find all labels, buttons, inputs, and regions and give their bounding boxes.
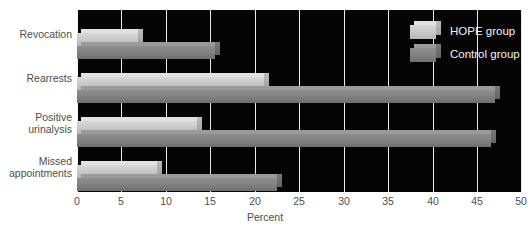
bar-cap <box>495 86 500 99</box>
xtick-label: 25 <box>284 195 314 207</box>
bar-revocation-control <box>77 46 215 59</box>
bar-topface <box>81 42 219 46</box>
plot-area: HOPE group Control group <box>77 10 522 192</box>
bar-cap <box>277 174 282 187</box>
legend-item-hope-group: HOPE group <box>410 22 518 45</box>
bar-cap <box>264 73 269 86</box>
category-label-line: urinalysis <box>0 124 72 136</box>
bar-cap <box>138 29 143 42</box>
xtick-label: 30 <box>329 195 359 207</box>
xtick-label: 50 <box>506 195 530 207</box>
legend-item-control-group: Control group <box>410 45 518 68</box>
xtick-label: 0 <box>62 195 92 207</box>
gridline-50 <box>521 10 522 192</box>
bar-topface <box>81 117 201 121</box>
bar-cap <box>157 161 162 174</box>
category-label-line: appointments <box>0 168 72 180</box>
bar-face <box>77 178 277 191</box>
category-label-line: Revocation <box>0 29 72 41</box>
bar-cap <box>215 42 220 55</box>
bar-face <box>77 90 495 103</box>
xtick-label: 35 <box>373 195 403 207</box>
bar-face <box>77 134 491 147</box>
xtick-label: 45 <box>462 195 492 207</box>
category-label-missed-appointments: Missed appointments <box>0 156 72 179</box>
bar-topface <box>81 130 495 134</box>
category-label-rearrests: Rearrests <box>0 73 72 85</box>
swatch-face <box>410 25 436 39</box>
control-swatch-icon <box>410 48 436 62</box>
category-label-revocation: Revocation <box>0 29 72 41</box>
bar-missed-appointments-control <box>77 178 277 191</box>
legend-label: HOPE group <box>450 24 515 38</box>
xtick-label: 20 <box>240 195 270 207</box>
bar-cap <box>491 130 496 143</box>
bar-cap <box>197 117 202 130</box>
hope-swatch-icon <box>410 25 436 39</box>
category-label-line: Missed <box>0 156 72 168</box>
x-axis-title: Percent <box>0 211 530 223</box>
xtick-label: 40 <box>418 195 448 207</box>
legend-label: Control group <box>450 47 520 61</box>
swatch-cap <box>436 21 441 35</box>
bar-face <box>77 46 215 59</box>
legend: HOPE group Control group <box>410 22 518 68</box>
category-label-line: Rearrests <box>0 73 72 85</box>
bar-topface <box>81 161 161 165</box>
swatch-cap <box>436 44 441 58</box>
bar-topface <box>81 29 142 33</box>
bar-chart: Revocation Rearrests Positive urinalysis… <box>0 0 530 244</box>
category-label-positive-urinalysis: Positive urinalysis <box>0 112 72 135</box>
xtick-label: 5 <box>106 195 136 207</box>
bar-topface <box>81 86 499 90</box>
bar-rearrests-control <box>77 90 495 103</box>
xtick-label: 15 <box>195 195 225 207</box>
bar-topface <box>81 174 281 178</box>
swatch-face <box>410 48 436 62</box>
xtick-label: 10 <box>151 195 181 207</box>
category-label-line: Positive <box>0 112 72 124</box>
bar-topface <box>81 73 268 77</box>
bar-positive-urinalysis-control <box>77 134 491 147</box>
